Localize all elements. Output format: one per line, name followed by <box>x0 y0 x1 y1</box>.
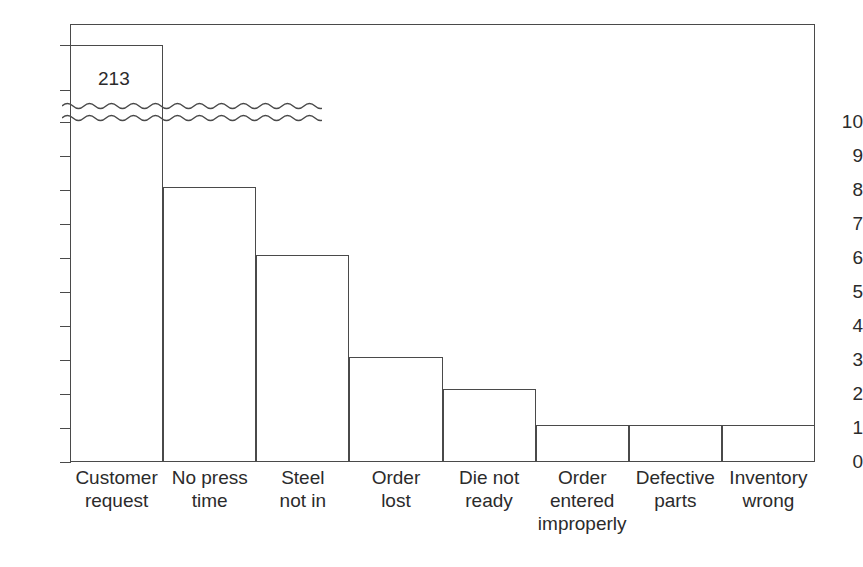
x-axis-labels: CustomerrequestNo presstimeSteelnot inOr… <box>70 466 815 561</box>
y-axis-tick-label: 5 <box>817 282 863 301</box>
bar <box>629 425 722 462</box>
x-axis-category-label-line: wrong <box>710 489 827 512</box>
x-axis-category-label: Inventorywrong <box>710 466 827 512</box>
bars-layer: 213 <box>70 24 815 462</box>
pareto-bar-chart: 012345678910 213 CustomerrequestNo press… <box>0 0 863 567</box>
bar <box>443 389 536 462</box>
bar <box>256 255 349 462</box>
bar <box>536 425 629 462</box>
bar <box>163 187 256 462</box>
bar <box>70 45 163 462</box>
bar <box>349 357 442 462</box>
y-axis-tick-label: 4 <box>817 316 863 335</box>
y-axis-tick-label: 2 <box>817 384 863 403</box>
y-axis-tick-label: 1 <box>817 418 863 437</box>
y-axis-tick <box>60 462 71 463</box>
y-axis-tick-label: 9 <box>817 146 863 165</box>
x-axis-category-label-line: Inventory <box>710 466 827 489</box>
x-axis-category-label-line: improperly <box>524 512 641 535</box>
y-axis-tick-label: 6 <box>817 248 863 267</box>
bar <box>722 425 815 462</box>
y-axis-tick-label: 7 <box>817 214 863 233</box>
bar-value-label: 213 <box>98 69 130 88</box>
y-axis-tick-label: 3 <box>817 350 863 369</box>
y-axis-tick-label: 8 <box>817 180 863 199</box>
y-axis-tick-label: 10 <box>817 112 863 131</box>
